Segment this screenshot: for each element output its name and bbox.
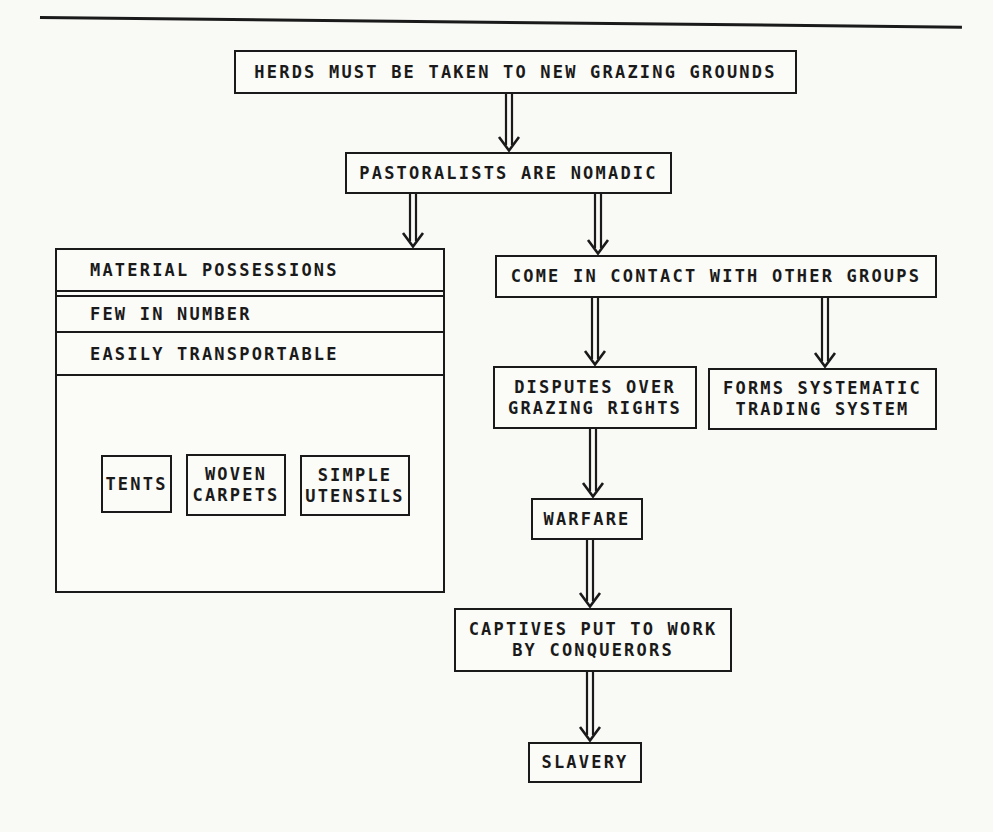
material-possessions-few-label: FEW IN NUMBER — [90, 304, 252, 324]
node-pastoralists: PASTORALISTS ARE NOMADIC — [345, 152, 672, 194]
arrow-disputes-to-warfare-icon — [580, 429, 606, 498]
node-material-possessions: MATERIAL POSSESSIONS FEW IN NUMBER EASIL… — [55, 248, 445, 593]
arrow-captives-to-slavery-icon — [577, 672, 603, 742]
arrow-contact-to-disputes-icon — [582, 298, 608, 366]
node-woven-carpets-line1: WOVEN — [205, 464, 267, 485]
node-tents-label: TENTS — [105, 474, 167, 495]
material-possessions-header-label: MATERIAL POSSESSIONS — [90, 260, 339, 280]
flowchart-page: HERDS MUST BE TAKEN TO NEW GRAZING GROUN… — [0, 0, 993, 832]
node-trading: FORMS SYSTEMATIC TRADING SYSTEM — [708, 368, 937, 430]
node-slavery-label: SLAVERY — [541, 752, 628, 773]
node-trading-line2: TRADING SYSTEM — [735, 399, 909, 420]
node-herds-label: HERDS MUST BE TAKEN TO NEW GRAZING GROUN… — [254, 62, 776, 83]
arrow-pastoralists-to-material-icon — [400, 194, 426, 248]
node-contact-label: COME IN CONTACT WITH OTHER GROUPS — [511, 266, 921, 287]
node-disputes: DISPUTES OVER GRAZING RIGHTS — [493, 366, 697, 429]
node-contact: COME IN CONTACT WITH OTHER GROUPS — [495, 255, 937, 298]
arrow-pastoralists-to-contact-icon — [585, 194, 611, 255]
page-top-rule — [40, 16, 962, 29]
material-possessions-row-few: FEW IN NUMBER — [57, 297, 443, 333]
node-captives-line1: CAPTIVES PUT TO WORK — [469, 619, 718, 640]
node-disputes-line1: DISPUTES OVER — [514, 377, 676, 398]
node-captives-line2: BY CONQUERORS — [512, 640, 674, 661]
node-disputes-line2: GRAZING RIGHTS — [508, 398, 682, 419]
node-captives: CAPTIVES PUT TO WORK BY CONQUERORS — [454, 608, 732, 672]
node-trading-line1: FORMS SYSTEMATIC — [723, 378, 922, 399]
node-woven-carpets: WOVEN CARPETS — [186, 454, 286, 516]
node-pastoralists-label: PASTORALISTS ARE NOMADIC — [359, 163, 657, 184]
node-slavery: SLAVERY — [528, 742, 642, 783]
material-possessions-header: MATERIAL POSSESSIONS — [57, 250, 443, 297]
node-warfare-label: WARFARE — [543, 509, 630, 530]
node-woven-carpets-line2: CARPETS — [192, 485, 279, 506]
node-simple-utensils: SIMPLE UTENSILS — [300, 455, 410, 516]
node-tents: TENTS — [101, 455, 172, 513]
node-simple-utensils-line2: UTENSILS — [305, 486, 404, 507]
arrow-contact-to-trading-icon — [812, 298, 838, 368]
arrow-warfare-to-captives-icon — [577, 540, 603, 608]
material-possessions-easily-label: EASILY TRANSPORTABLE — [90, 344, 339, 364]
arrow-herds-to-pastoralists-icon — [496, 94, 522, 152]
material-possessions-row-easily: EASILY TRANSPORTABLE — [57, 333, 443, 376]
node-warfare: WARFARE — [531, 498, 643, 540]
node-herds: HERDS MUST BE TAKEN TO NEW GRAZING GROUN… — [234, 50, 797, 94]
node-simple-utensils-line1: SIMPLE — [318, 465, 393, 486]
